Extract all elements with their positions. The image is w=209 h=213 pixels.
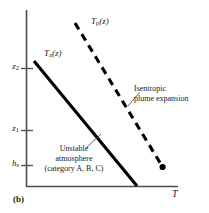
annotation-isentropic-plume-expansion: Isentropic plume expansion <box>134 84 188 104</box>
annotation-unstable-atmosphere: Unstable atmosphere (category A, B, C) <box>31 144 117 175</box>
curve-label-ambient: Ta(z) <box>44 49 61 59</box>
annotation-unstable-line3: (category A, B, C) <box>31 164 117 174</box>
plot-canvas <box>0 0 209 213</box>
tick-label-z1: z1 <box>2 124 19 134</box>
x-axis-label: T <box>172 189 178 200</box>
panel-caption: (b) <box>13 195 24 205</box>
annotation-unstable-line1: Unstable <box>31 144 117 154</box>
curve-label-plume: Tp(z) <box>91 17 109 27</box>
annotation-isentropic-line2: plume expansion <box>134 94 188 104</box>
plume-endpoint-marker <box>160 164 166 170</box>
tick-label-z2: z2 <box>2 62 19 72</box>
annotation-isentropic-line1: Isentropic <box>134 84 188 94</box>
tick-label-hs: hs <box>2 159 19 169</box>
figure-panel-b: z2 z1 hs Ta(z) Tp(z) Isentropic plume ex… <box>0 0 209 213</box>
annotation-unstable-line2: atmosphere <box>31 154 117 164</box>
